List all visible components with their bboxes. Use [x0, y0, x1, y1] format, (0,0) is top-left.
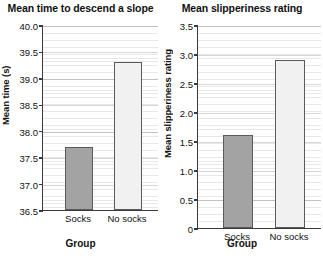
chart-title: Mean time to descend a slope — [0, 2, 161, 14]
gridline — [198, 26, 321, 27]
y-axis-tick-label: 36.5 — [20, 206, 39, 217]
gridline — [198, 55, 321, 56]
y-axis-tick — [39, 105, 43, 106]
y-axis-tick-label: 40.0 — [20, 21, 39, 32]
x-axis-title: Group — [0, 238, 161, 249]
y-axis-tick — [194, 25, 198, 26]
y-axis-tick-label: 3.0 — [180, 50, 193, 61]
y-axis-tick — [194, 141, 198, 142]
x-axis-category-label: No socks — [107, 213, 146, 224]
two-panel-bar-figure: Mean time to descend a slope Mean time (… — [0, 0, 323, 258]
y-axis-tick — [194, 199, 198, 200]
y-axis-tick — [194, 54, 198, 55]
bar-socks — [223, 135, 253, 228]
y-axis-tick-label: 39.0 — [20, 73, 39, 84]
y-axis-tick-label: 1.0 — [180, 166, 193, 177]
y-axis-title: Mean slipperiness rating — [162, 0, 173, 208]
y-axis-tick — [39, 210, 43, 211]
y-axis-tick-label: 3.5 — [180, 21, 193, 32]
y-axis-tick — [194, 228, 198, 229]
plot-area: 36.537.037.538.038.539.039.540.0 — [42, 26, 158, 211]
y-axis-tick-label: 38.0 — [20, 126, 39, 137]
gridline — [43, 52, 158, 53]
plot-area: 00.51.01.52.02.53.03.5 — [197, 26, 321, 229]
y-axis-tick-label: 2.5 — [180, 79, 193, 90]
y-axis-tick-label: 0 — [188, 224, 193, 235]
x-axis-category-label: Socks — [224, 231, 250, 242]
bar-socks — [65, 147, 93, 210]
gridline — [43, 26, 158, 27]
y-axis-tick — [39, 184, 43, 185]
x-axis-category-label: Socks — [65, 213, 91, 224]
y-axis-tick — [39, 78, 43, 79]
bar-no-socks — [275, 60, 305, 228]
y-axis-title: Mean time (s) — [0, 0, 11, 190]
y-axis-tick — [39, 131, 43, 132]
y-axis-tick — [39, 25, 43, 26]
panel-mean-time: Mean time to descend a slope Mean time (… — [0, 0, 161, 258]
y-axis-tick-label: 2.0 — [180, 108, 193, 119]
y-axis-tick-label: 38.5 — [20, 100, 39, 111]
y-axis-tick — [194, 170, 198, 171]
y-axis-tick — [194, 112, 198, 113]
chart-title: Mean slipperiness rating — [161, 2, 323, 14]
x-axis-category-label: No socks — [269, 231, 308, 242]
y-axis-tick-label: 39.5 — [20, 47, 39, 58]
y-axis-tick — [194, 83, 198, 84]
y-axis-tick — [39, 157, 43, 158]
y-axis-tick-label: 0.5 — [180, 195, 193, 206]
bar-no-socks — [114, 62, 142, 210]
y-axis-tick — [39, 52, 43, 53]
panel-mean-slipperiness: Mean slipperiness rating Mean slipperine… — [161, 0, 323, 258]
y-axis-tick-label: 1.5 — [180, 137, 193, 148]
y-axis-tick-label: 37.0 — [20, 179, 39, 190]
y-axis-tick-label: 37.5 — [20, 153, 39, 164]
